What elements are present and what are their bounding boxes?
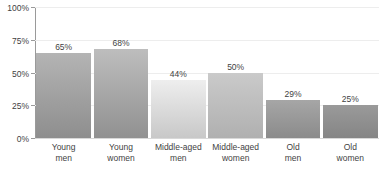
y-axis-label-75: 75% (0, 36, 29, 46)
bar-value-old-women: 25% (323, 94, 378, 104)
y-axis-label-50: 50% (0, 69, 29, 79)
y-axis-label-0: 0% (0, 134, 29, 144)
category-label-line2: men (150, 153, 207, 164)
gridline-75 (35, 40, 379, 41)
bar-middle-aged-women (208, 73, 263, 139)
category-label-young-men: Young men (35, 142, 92, 164)
category-label-old-women: Old women (322, 142, 379, 164)
bar-value-young-women: 68% (94, 38, 149, 48)
bar-value-old-men: 29% (266, 89, 321, 99)
category-label-line2: women (322, 153, 379, 164)
category-label-line1: Middle-aged (212, 142, 259, 152)
category-label-line2: men (35, 153, 92, 164)
category-label-line2: women (92, 153, 149, 164)
category-label-young-women: Young women (92, 142, 149, 164)
y-axis-label-25: 25% (0, 101, 29, 111)
category-label-line1: Young (52, 142, 76, 152)
bar-middle-aged-men (151, 80, 206, 138)
category-label-line2: women (207, 153, 264, 164)
category-label-line2: men (264, 153, 321, 164)
bar-value-middle-aged-men: 44% (151, 69, 206, 79)
category-label-line1: Old (286, 142, 299, 152)
bar-young-men (36, 53, 91, 138)
bar-value-young-men: 65% (36, 42, 91, 52)
category-label-line1: Middle-aged (155, 142, 202, 152)
gridline-baseline (35, 138, 379, 139)
category-label-line1: Young (109, 142, 133, 152)
bar-value-middle-aged-women: 50% (208, 62, 263, 72)
category-label-middle-aged-men: Middle-aged men (150, 142, 207, 164)
plot-area (35, 7, 379, 138)
bar-old-men (266, 100, 321, 138)
bar-chart: 100% 75% 50% 25% 0% 65% 68% 44% 50% 29% … (0, 0, 381, 175)
category-label-middle-aged-women: Middle-aged women (207, 142, 264, 164)
category-label-old-men: Old men (264, 142, 321, 164)
bar-young-women (94, 49, 149, 138)
category-label-line1: Old (344, 142, 357, 152)
y-axis-label-100: 100% (0, 3, 29, 13)
bar-old-women (323, 105, 378, 138)
gridline-100 (35, 7, 379, 8)
